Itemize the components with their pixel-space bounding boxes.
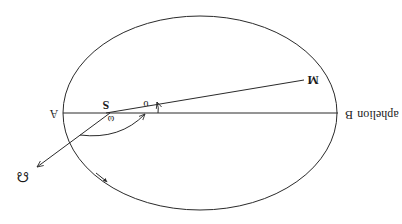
radius-vector-line <box>106 80 304 113</box>
label-argument-of-perihelion: ω <box>107 114 114 125</box>
orbit-diagram: A B aphelion S M υ ω ☊ <box>0 0 402 224</box>
label-ascending-node: ☊ <box>17 169 29 184</box>
node-line-arrow <box>37 113 110 167</box>
label-planet-M: M <box>307 73 318 87</box>
label-aphelion-B: B <box>345 108 353 122</box>
nu-angle-arrow <box>157 102 158 113</box>
label-perihelion-A: A <box>49 107 58 121</box>
label-true-anomaly: υ <box>143 99 149 111</box>
label-aphelion-text: aphelion <box>357 108 398 122</box>
label-sun-S: S <box>102 98 109 112</box>
